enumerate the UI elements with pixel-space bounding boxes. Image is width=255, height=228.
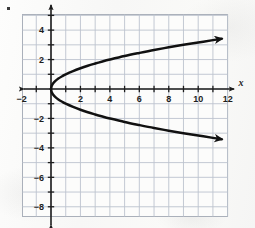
y-tick-label: −4	[34, 143, 44, 153]
y-tick-label: 4	[39, 25, 44, 35]
x-tick-label: 6	[137, 94, 142, 104]
x-tick-label: 8	[166, 94, 171, 104]
coordinate-plane-graph: −224681012 42−2−4−6−8 x	[0, 0, 255, 228]
x-tick-label: 12	[223, 94, 233, 104]
y-tick-label: −2	[34, 114, 44, 124]
x-tick-label: −2	[16, 94, 26, 104]
x-tick-label: 4	[107, 94, 112, 104]
x-tick-label: 2	[78, 94, 83, 104]
x-tick-label: 10	[193, 94, 203, 104]
x-axis-label: x	[238, 77, 244, 88]
graph-page: −224681012 42−2−4−6−8 x	[0, 0, 255, 228]
y-tick-label: −8	[34, 202, 44, 212]
y-tick-label: 2	[39, 55, 44, 65]
y-tick-label: −6	[34, 173, 44, 183]
